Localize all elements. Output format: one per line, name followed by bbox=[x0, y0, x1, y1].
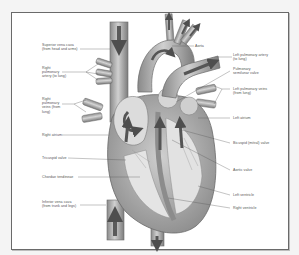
label-chordae-tendineae: Chordae tendineae bbox=[42, 175, 73, 179]
right-pulmonary-vessels bbox=[82, 58, 113, 123]
heart-illustration bbox=[0, 0, 299, 255]
label-aorta: Aorta bbox=[195, 44, 204, 48]
label-left-ventricle: Left ventricle bbox=[233, 193, 254, 197]
label-left-atrium: Left atrium bbox=[233, 116, 251, 120]
label-right-atrium: Right atrium bbox=[42, 133, 62, 137]
label-left-pulmonary-veins: Left pulmonary veins (from lung) bbox=[233, 87, 267, 95]
label-right-pulmonary-veins: Right pulmonary veins (from lung) bbox=[42, 97, 60, 114]
label-right-pulmonary-artery: Right pulmonary artery (to lung) bbox=[42, 66, 66, 79]
label-pulmonary-semilunar-valve: Pulmonary semilunar valve bbox=[233, 67, 259, 75]
label-inferior-vena-cava: Inferior vena cava (from trunk and legs) bbox=[42, 200, 76, 208]
label-bicuspid-mitral-valve: Bicuspid (mitral) valve bbox=[233, 141, 269, 145]
label-right-ventricle: Right ventricle bbox=[233, 206, 257, 210]
label-left-pulmonary-artery: Left pulmonary artery (to lung) bbox=[233, 53, 268, 61]
label-aortic-valve: Aortic valve bbox=[233, 168, 252, 172]
label-tricuspid-valve: Tricuspid valve bbox=[42, 156, 67, 160]
label-superior-vena-cava: Superior vena cava (from head and arms) bbox=[42, 43, 78, 51]
